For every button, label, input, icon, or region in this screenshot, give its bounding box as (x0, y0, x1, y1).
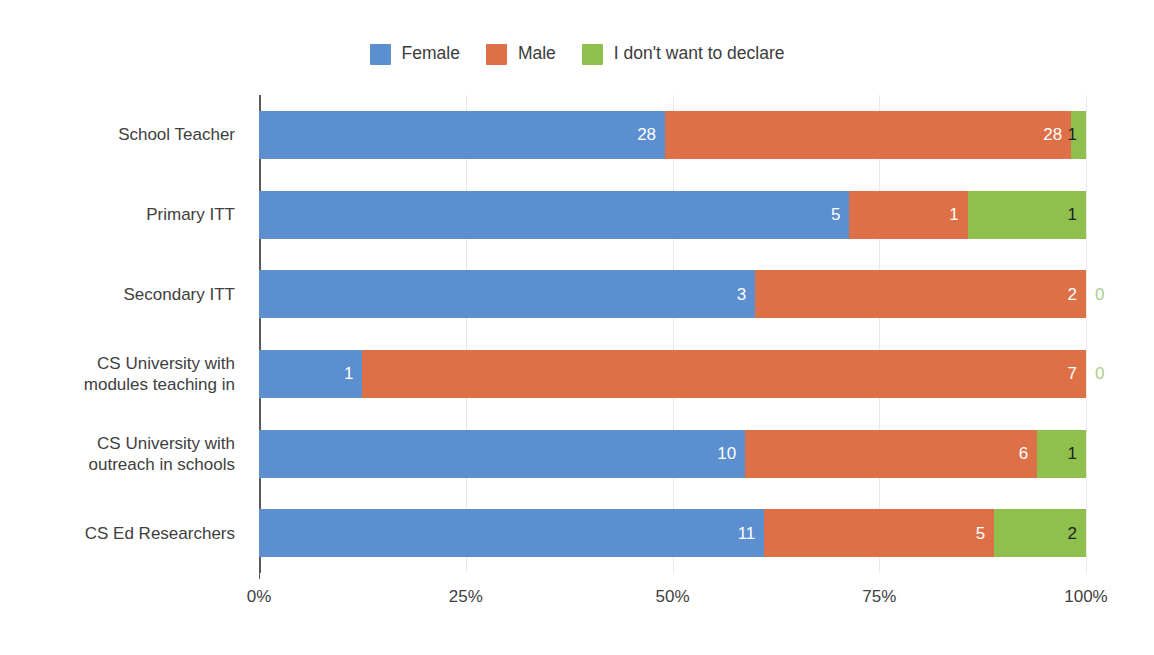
bar-value-label: 10 (717, 445, 745, 462)
bar-segment-male[interactable]: 1 (849, 191, 967, 239)
bar-value-label: 2 (1068, 286, 1086, 303)
bar-segment-declare[interactable]: 1 (1037, 430, 1086, 478)
bar-value-label: 1 (949, 206, 967, 223)
legend-entry[interactable]: Female (370, 44, 460, 65)
y-axis-label: Primary ITT (0, 191, 235, 239)
y-axis-label-line: CS University with (97, 433, 235, 454)
y-axis-label-line: Primary ITT (146, 204, 235, 225)
gridline (879, 95, 880, 573)
bar-segment-declare[interactable]: 1 (1071, 111, 1086, 159)
bar-segment-male[interactable]: 7 (362, 350, 1086, 398)
x-axis-tick-label: 50% (655, 587, 689, 607)
legend-swatch-female (370, 44, 391, 65)
legend-swatch-male (486, 44, 507, 65)
x-axis-tick-label: 75% (862, 587, 896, 607)
bar-value-label: 5 (831, 206, 849, 223)
bar-segment-female[interactable]: 10 (259, 430, 745, 478)
bar-row: 170 (259, 350, 1086, 398)
bar-value-label: 1 (1068, 445, 1086, 462)
bar-value-label: 2 (1068, 525, 1086, 542)
legend-swatch-declare (582, 44, 603, 65)
bar-segment-male[interactable]: 2 (755, 270, 1086, 318)
bar-row: 1152 (259, 509, 1086, 557)
gridline (673, 95, 674, 573)
legend-entry[interactable]: Male (486, 44, 556, 65)
y-axis-label: CS Ed Researchers (0, 509, 235, 557)
y-axis-label-line: CS Ed Researchers (85, 523, 235, 544)
y-axis-label: Secondary ITT (0, 270, 235, 318)
chart-legend: FemaleMaleI don't want to declare (0, 42, 1154, 66)
bar-segment-female[interactable]: 11 (259, 509, 764, 557)
y-axis-label-line: outreach in schools (89, 454, 235, 475)
x-axis-tick-label: 0% (247, 587, 272, 607)
bar-segment-declare[interactable]: 2 (994, 509, 1086, 557)
y-axis-label: CS University withmodules teaching in (0, 350, 235, 398)
bar-value-label: 28 (637, 126, 665, 143)
bar-value-label: 5 (976, 525, 994, 542)
y-axis-label-line: Secondary ITT (124, 284, 236, 305)
bar-value-label: 6 (1019, 445, 1037, 462)
bar-row: 28281 (259, 111, 1086, 159)
bar-value-label: 0 (1095, 365, 1104, 382)
plot-area: 2828151132017010611152 (259, 95, 1086, 573)
bar-segment-male[interactable]: 28 (665, 111, 1071, 159)
bar-value-label: 7 (1068, 365, 1086, 382)
bar-value-label: 1 (344, 365, 362, 382)
gridlines (259, 95, 1086, 573)
x-axis-tick-mark (259, 573, 260, 579)
bar-value-label: 11 (738, 525, 765, 542)
bar-value-label: 0 (1095, 286, 1104, 303)
legend-label: Male (518, 45, 556, 63)
x-axis-tick-label: 100% (1064, 587, 1107, 607)
y-axis-line (259, 95, 261, 573)
bar-segment-female[interactable]: 5 (259, 191, 849, 239)
legend-label: Female (402, 45, 460, 63)
bar-value-label: 1 (1068, 126, 1086, 143)
gridline (466, 95, 467, 573)
bar-row: 320 (259, 270, 1086, 318)
bar-value-label: 3 (737, 286, 755, 303)
x-axis: 0%25%50%75%100% (259, 573, 1086, 613)
bar-value-label: 1 (1068, 206, 1086, 223)
stacked-bar-chart: FemaleMaleI don't want to declare School… (0, 0, 1154, 655)
gridline (1086, 95, 1087, 573)
bar-segment-female[interactable]: 28 (259, 111, 665, 159)
bar-row: 1061 (259, 430, 1086, 478)
legend-label: I don't want to declare (614, 45, 785, 63)
bar-segment-declare[interactable]: 1 (968, 191, 1086, 239)
bar-segment-male[interactable]: 5 (764, 509, 994, 557)
x-axis-tick-label: 25% (449, 587, 483, 607)
bar-segment-male[interactable]: 6 (745, 430, 1037, 478)
bar-row: 511 (259, 191, 1086, 239)
y-axis-label-line: modules teaching in (84, 374, 235, 395)
bar-segment-female[interactable]: 1 (259, 350, 362, 398)
legend-entry[interactable]: I don't want to declare (582, 44, 785, 65)
y-axis-label: School Teacher (0, 111, 235, 159)
y-axis-label: CS University withoutreach in schools (0, 430, 235, 478)
y-axis-label-line: School Teacher (118, 124, 235, 145)
y-axis-label-line: CS University with (97, 353, 235, 374)
y-axis-category-labels: School TeacherPrimary ITTSecondary ITTCS… (0, 95, 246, 573)
bar-segment-female[interactable]: 3 (259, 270, 755, 318)
